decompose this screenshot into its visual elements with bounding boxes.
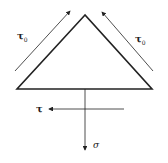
stress-diagram	[0, 0, 168, 163]
tau0-left-label: τ0	[17, 31, 28, 43]
triangle-element	[17, 15, 152, 89]
sigma-label: σ	[93, 141, 99, 150]
tau-label: τ	[36, 104, 43, 114]
tau-symbol: τ	[135, 33, 142, 44]
subscript: 0	[142, 39, 146, 46]
tau0-right-label: τ0	[135, 34, 146, 46]
tau-symbol: τ	[17, 30, 24, 41]
subscript: 0	[24, 36, 28, 43]
